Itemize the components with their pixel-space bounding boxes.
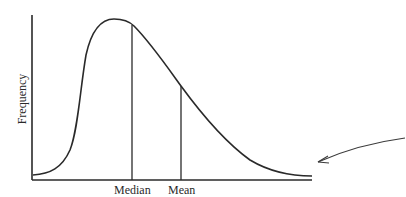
- tail-arrow-icon: [318, 138, 405, 163]
- mean-label: Mean: [168, 184, 195, 196]
- distribution-curve: [33, 19, 312, 176]
- skewed-distribution-chart: [0, 0, 406, 197]
- median-label: Median: [114, 184, 151, 196]
- y-axis-label: Frequency: [16, 74, 28, 125]
